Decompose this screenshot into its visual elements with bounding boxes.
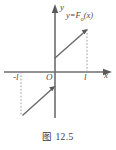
y-axis-label: y — [60, 3, 64, 12]
tick-label-positive-l: l — [84, 73, 87, 82]
plot-area — [0, 0, 116, 124]
function-label: y=Fo(x) — [66, 11, 93, 22]
y-axis-arrowhead — [52, 4, 58, 13]
figure-container: y x O -l l y=Fo(x) 图 12.5 — [0, 0, 116, 150]
origin-label: O — [46, 73, 53, 82]
figure-caption: 图 12.5 — [0, 126, 116, 144]
x-axis-label: x — [104, 71, 108, 80]
function-label-prefix: y=F — [66, 10, 81, 20]
function-lower-branch — [23, 89, 53, 116]
graph-svg — [0, 0, 116, 124]
function-label-suffix: (x) — [84, 10, 93, 20]
figure-caption-text: 图 12.5 — [42, 132, 73, 142]
tick-label-negative-l: -l — [13, 73, 19, 82]
function-upper-branch — [55, 32, 85, 59]
